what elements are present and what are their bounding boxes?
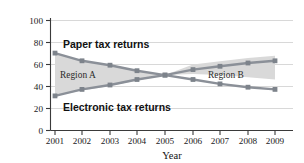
x-axis-title: Year (162, 150, 182, 161)
y-tick-label-60: 60 (34, 60, 44, 70)
y-tick-label-0: 0 (38, 126, 43, 136)
chart-figure: 100 80 60 40 20 0 2001 2002 2003 2004 20… (0, 0, 304, 163)
x-tick-label-2002: 2002 (73, 136, 92, 146)
y-tick-label-80: 80 (34, 38, 44, 48)
y-tick-label-20: 20 (34, 104, 44, 114)
paper-tax-returns-label: Paper tax returns (63, 38, 150, 50)
x-tick-label-2005: 2005 (156, 136, 175, 146)
x-tick-label-2003: 2003 (101, 136, 120, 146)
line-chart: 100 80 60 40 20 0 2001 2002 2003 2004 20… (0, 0, 304, 163)
region-a-label: Region A (60, 70, 96, 80)
x-tick-label-2007: 2007 (211, 136, 230, 146)
y-tick-label-40: 40 (34, 82, 44, 92)
region-b-label: Region B (208, 70, 244, 80)
y-tick-label-100: 100 (29, 16, 43, 26)
x-tick-label-2004: 2004 (128, 136, 147, 146)
x-tick-label-2006: 2006 (184, 136, 203, 146)
electronic-tax-returns-label: Electronic tax returns (63, 101, 171, 113)
x-tick-label-2009: 2009 (266, 136, 285, 146)
x-tick-label-2008: 2008 (239, 136, 258, 146)
x-tick-label-2001: 2001 (46, 136, 65, 146)
